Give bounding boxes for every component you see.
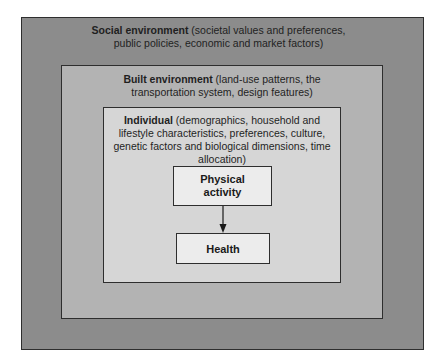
built-environment-title: Built environment [123,73,212,85]
individual-desc-4: allocation) [103,153,341,166]
physical-activity-line-2: activity [174,186,271,199]
built-environment-desc-1: (land-use patterns, the [213,73,321,85]
social-environment-title: Social environment [92,24,189,36]
built-environment-desc-2: transportation system, design features) [61,86,383,99]
arrow-down-icon [218,206,228,233]
built-environment-label: Built environment (land-use patterns, th… [61,73,383,99]
individual-title: Individual [124,114,173,126]
physical-activity-line-1: Physical [174,173,271,186]
individual-label: Individual (demographics, household and … [103,114,341,166]
physical-activity-text: Physical activity [174,173,271,199]
individual-desc-2: lifestyle characteristics, preferences, … [103,127,341,140]
social-environment-desc-2: public policies, economic and market fac… [0,37,437,50]
social-environment-label: Social environment (societal values and … [0,24,437,50]
physical-activity-node: Physical activity [173,166,272,206]
individual-desc-1: (demographics, household and [173,114,320,126]
individual-desc-3: genetic factors and biological dimension… [103,140,341,153]
social-environment-desc-1: (societal values and preferences, [188,24,345,36]
health-node: Health [176,233,270,264]
health-text: Health [177,243,269,256]
